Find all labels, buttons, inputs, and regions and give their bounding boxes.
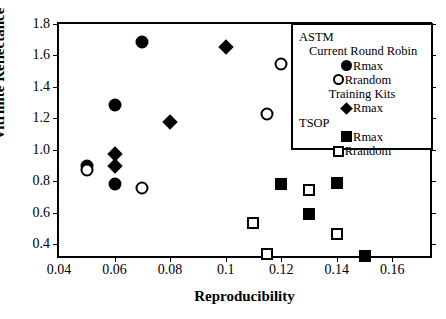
legend-group-astm: ASTM (299, 30, 425, 44)
y-tick-label: 0.6 (33, 206, 51, 220)
data-point-filled-square (275, 178, 287, 190)
y-tick-right (430, 213, 436, 214)
legend-label: Rrandom (345, 144, 392, 158)
data-point-open-circle (261, 108, 274, 121)
data-point-open-circle (80, 164, 93, 177)
data-point-filled-circle (108, 178, 121, 191)
legend-label: Rmax (353, 59, 383, 73)
y-tick (53, 244, 59, 245)
x-axis-title: Reproducibility (57, 288, 432, 305)
data-point-filled-diamond (162, 115, 178, 131)
plot-area: 0.40.60.81.01.21.41.61.8 0.040.060.080.1… (57, 22, 432, 258)
legend-entry-tsop-rmax: Rmax (299, 130, 425, 144)
legend-subgroup-training-kits: Training Kits (299, 87, 425, 101)
y-tick-right (430, 150, 436, 151)
y-tick-label: 1.2 (33, 111, 51, 125)
data-point-filled-diamond (107, 158, 123, 174)
filled-circle-icon (341, 60, 352, 71)
open-square-icon (333, 146, 344, 157)
x-tick-label: 0.04 (47, 263, 72, 277)
data-point-filled-diamond (218, 39, 234, 55)
legend-group-tsop: TSOP (299, 116, 425, 130)
legend-entry-astm-training-rmax: Rmax (299, 101, 425, 115)
y-tick-label: 0.8 (33, 174, 51, 188)
y-tick (53, 87, 59, 88)
data-point-filled-square (359, 250, 371, 262)
y-tick-label: 1.6 (33, 48, 51, 62)
y-tick (53, 118, 59, 119)
data-point-filled-circle (136, 36, 149, 49)
y-tick-label: 1.0 (33, 143, 51, 157)
data-point-open-square (331, 228, 343, 240)
filled-square-icon (341, 131, 352, 142)
data-point-filled-square (303, 208, 315, 220)
legend: ASTM Current Round Robin Rmax Rrandom Tr… (291, 23, 433, 150)
y-tick (53, 150, 59, 151)
data-point-open-circle (136, 182, 149, 195)
legend-label: Rmax (353, 130, 383, 144)
y-tick (53, 55, 59, 56)
filled-diamond-icon (340, 102, 353, 115)
y-tick-right (430, 244, 436, 245)
data-point-filled-square (331, 177, 343, 189)
y-tick-label: 1.4 (33, 80, 51, 94)
x-tick-label: 0.16 (380, 263, 405, 277)
y-tick (53, 213, 59, 214)
y-tick-label: 1.8 (33, 17, 51, 31)
y-tick-label: 0.4 (33, 237, 51, 251)
legend-entry-astm-current-rmax: Rmax (299, 59, 425, 73)
data-point-open-square (247, 217, 259, 229)
y-axis-title: Vitrinite Reflectance (0, 8, 8, 140)
x-tick-label: 0.12 (269, 263, 294, 277)
legend-label: Rmax (353, 101, 383, 115)
chart-page: Vitrinite Reflectance 0.40.60.81.01.21.4… (0, 0, 446, 319)
y-tick (53, 181, 59, 182)
legend-label: Rrandom (345, 73, 392, 87)
x-tick-label: 0.08 (158, 263, 183, 277)
legend-entry-astm-current-rrandom: Rrandom (299, 73, 425, 87)
legend-subgroup-current-round-robin: Current Round Robin (299, 44, 425, 58)
x-tick-label: 0.14 (325, 263, 350, 277)
data-point-open-square (261, 248, 273, 260)
legend-entry-tsop-rrandom: Rrandom (299, 144, 425, 158)
data-point-open-circle (275, 58, 288, 71)
y-tick (53, 24, 59, 25)
data-point-filled-circle (108, 99, 121, 112)
x-tick-label: 0.1 (217, 263, 235, 277)
data-point-open-square (303, 184, 315, 196)
x-tick-label: 0.06 (102, 263, 127, 277)
open-circle-icon (333, 74, 344, 85)
y-tick-right (430, 181, 436, 182)
